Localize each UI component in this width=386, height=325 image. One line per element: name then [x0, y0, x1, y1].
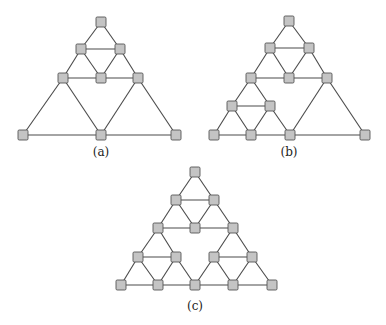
graph-node [246, 73, 256, 83]
graph-node [96, 73, 106, 83]
graph-node [116, 280, 126, 290]
panel-label-b: (b) [280, 145, 297, 159]
graph-node [304, 43, 314, 53]
graph-node [133, 73, 143, 83]
graph-node [133, 252, 143, 262]
graph-node [76, 44, 86, 54]
graph-edge [63, 78, 101, 135]
graph-panel-a: (a) [18, 17, 181, 159]
graph-edge [327, 78, 365, 135]
graph-node [209, 252, 219, 262]
graph-node [115, 44, 125, 54]
graph-node [96, 17, 106, 27]
graph-node [153, 280, 163, 290]
graph-node [18, 130, 28, 140]
graph-node [322, 73, 332, 83]
nodes-a [18, 17, 181, 140]
graph-node [227, 101, 237, 111]
graph-node [360, 130, 370, 140]
graph-node [285, 130, 295, 140]
graph-node [265, 43, 275, 53]
graph-edge [23, 78, 63, 135]
graph-node [246, 130, 256, 140]
graph-node [267, 280, 277, 290]
graph-node [190, 167, 200, 177]
graph-node [190, 280, 200, 290]
nodes-c [116, 167, 277, 290]
graph-node [190, 223, 200, 233]
graph-node [58, 73, 68, 83]
graph-node [209, 130, 219, 140]
graph-node [153, 223, 163, 233]
graph-node [228, 223, 238, 233]
graph-edge [138, 78, 176, 135]
graph-node [284, 16, 294, 26]
graph-node [265, 101, 275, 111]
figure-canvas: (a) (b) (c) [0, 0, 386, 325]
panel-label-c: (c) [187, 299, 203, 313]
graph-panel-b: (b) [209, 16, 370, 159]
nodes-b [209, 16, 370, 140]
graph-node [96, 130, 106, 140]
graph-edge [290, 78, 327, 135]
graph-edge [101, 78, 138, 135]
graph-node [284, 73, 294, 83]
graph-node [171, 130, 181, 140]
graph-node [209, 195, 219, 205]
panel-label-a: (a) [93, 145, 110, 159]
graph-panel-c: (c) [116, 167, 277, 313]
graph-node [171, 195, 181, 205]
graph-node [171, 252, 181, 262]
graph-node [247, 252, 257, 262]
graph-node [228, 280, 238, 290]
